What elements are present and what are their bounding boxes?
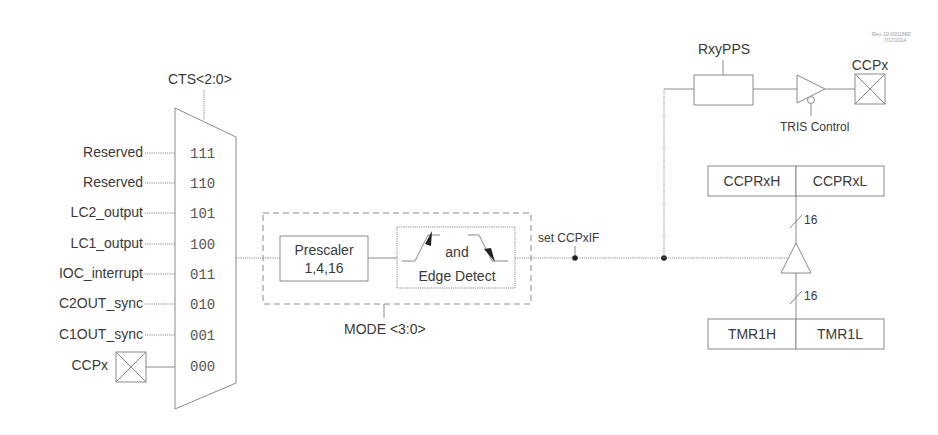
svg-text:7/17/2014: 7/17/2014 xyxy=(884,37,906,43)
svg-text:Prescaler: Prescaler xyxy=(294,242,353,258)
svg-text:LC2_output: LC2_output xyxy=(71,204,144,220)
mux-input: C1OUT_sync 001 xyxy=(59,326,215,344)
cts-multiplexer: CTS<2:0> xyxy=(168,71,268,409)
junction-dot xyxy=(572,255,578,261)
svg-text:Edge Detect: Edge Detect xyxy=(418,268,495,284)
svg-text:C2OUT_sync: C2OUT_sync xyxy=(59,295,143,311)
svg-text:and: and xyxy=(445,244,468,260)
svg-text:101: 101 xyxy=(190,206,215,222)
mux-input: Reserved 111 xyxy=(83,144,215,162)
output-path: RxyPPS TRIS Control CCPx xyxy=(664,41,888,134)
svg-text:CCPRxL: CCPRxL xyxy=(813,173,868,189)
svg-text:1,4,16: 1,4,16 xyxy=(305,260,344,276)
rxypps-label: RxyPPS xyxy=(698,41,750,57)
svg-text:IOC_interrupt: IOC_interrupt xyxy=(59,265,143,281)
revision-note: Rev. 10-000186D 7/17/2014 xyxy=(872,31,911,43)
tristate-buffer-icon xyxy=(797,75,825,104)
ccp-capture-diagram: Rev. 10-000186D 7/17/2014 CTS<2:0> Reser… xyxy=(0,0,938,435)
mux-input: C2OUT_sync 010 xyxy=(59,295,215,313)
pin-pad-icon xyxy=(116,352,146,382)
svg-text:001: 001 xyxy=(190,328,215,344)
capture-buffer-icon xyxy=(781,243,811,273)
bus-width-label: 16 xyxy=(804,213,818,227)
capture-registers: CCPRxH CCPRxL xyxy=(708,166,884,196)
mux-input: IOC_interrupt 011 xyxy=(59,265,215,283)
svg-text:LC1_output: LC1_output xyxy=(71,235,144,251)
mux-input-list: Reserved 111 Reserved 110 LC2_output 101… xyxy=(59,144,215,382)
svg-text:100: 100 xyxy=(190,237,215,253)
svg-text:000: 000 xyxy=(190,359,215,375)
mode-label: MODE <3:0> xyxy=(344,321,426,337)
pin-pad-icon xyxy=(855,74,885,104)
svg-text:110: 110 xyxy=(190,176,215,192)
mux-input-ccpx-pin: CCPx 000 xyxy=(71,352,215,382)
ccpx-output-label: CCPx xyxy=(852,57,889,73)
mux-input: LC1_output 100 xyxy=(71,235,216,253)
svg-text:011: 011 xyxy=(190,267,215,283)
svg-text:Reserved: Reserved xyxy=(83,174,143,190)
svg-text:CCPRxH: CCPRxH xyxy=(724,173,781,189)
bus-width-label: 16 xyxy=(804,289,818,303)
svg-text:TMR1L: TMR1L xyxy=(817,326,863,342)
mode-block: Prescaler 1,4,16 and Edge Detect MODE <3… xyxy=(263,213,531,337)
svg-text:010: 010 xyxy=(190,297,215,313)
set-ccpxif-label: set CCPxIF xyxy=(538,231,599,245)
tris-control-label: TRIS Control xyxy=(780,120,849,134)
svg-text:Reserved: Reserved xyxy=(83,144,143,160)
edge-detect-box: and Edge Detect xyxy=(397,227,515,288)
prescaler-box: Prescaler 1,4,16 xyxy=(280,236,368,281)
timer-registers: TMR1H TMR1L xyxy=(708,319,884,349)
svg-text:111: 111 xyxy=(190,146,215,162)
cts-select-label: CTS<2:0> xyxy=(168,71,232,87)
svg-text:TMR1H: TMR1H xyxy=(728,326,776,342)
rxypps-box xyxy=(694,75,753,105)
svg-text:CCPx: CCPx xyxy=(71,357,108,373)
mux-input: Reserved 110 xyxy=(83,174,215,192)
svg-text:C1OUT_sync: C1OUT_sync xyxy=(59,326,143,342)
mux-input: LC2_output 101 xyxy=(71,204,216,222)
